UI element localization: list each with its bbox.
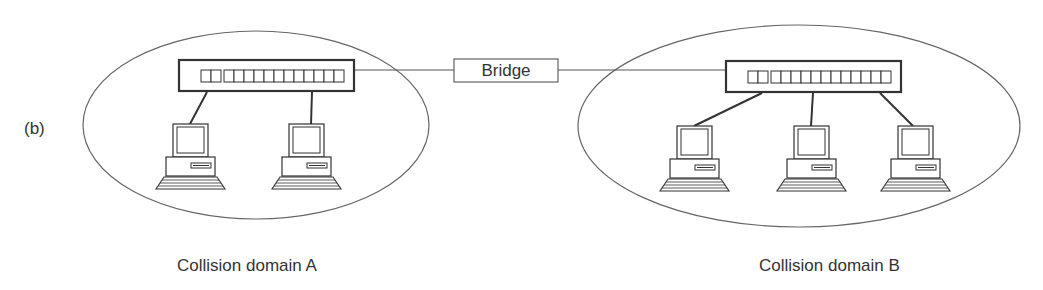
computer-b3-icon — [881, 126, 950, 191]
collision-domain-b-label: Collision domain B — [759, 256, 900, 276]
computer-a1-icon — [156, 124, 225, 189]
hub-a-icon — [179, 60, 354, 91]
computer-b1-icon — [660, 126, 729, 191]
cable-b3 — [880, 93, 913, 126]
bridge-label: Bridge — [454, 59, 558, 82]
cable-b1 — [694, 93, 762, 126]
hub-b-icon — [726, 61, 901, 92]
computer-b2-icon — [777, 126, 846, 191]
bridge-network-diagram — [0, 0, 1043, 290]
cable-a2 — [311, 92, 312, 124]
part-label: (b) — [24, 119, 45, 139]
collision-domain-a-label: Collision domain A — [177, 256, 317, 276]
computer-a2-icon — [272, 124, 341, 189]
cable-b2 — [811, 93, 813, 126]
cable-a1 — [190, 92, 207, 124]
